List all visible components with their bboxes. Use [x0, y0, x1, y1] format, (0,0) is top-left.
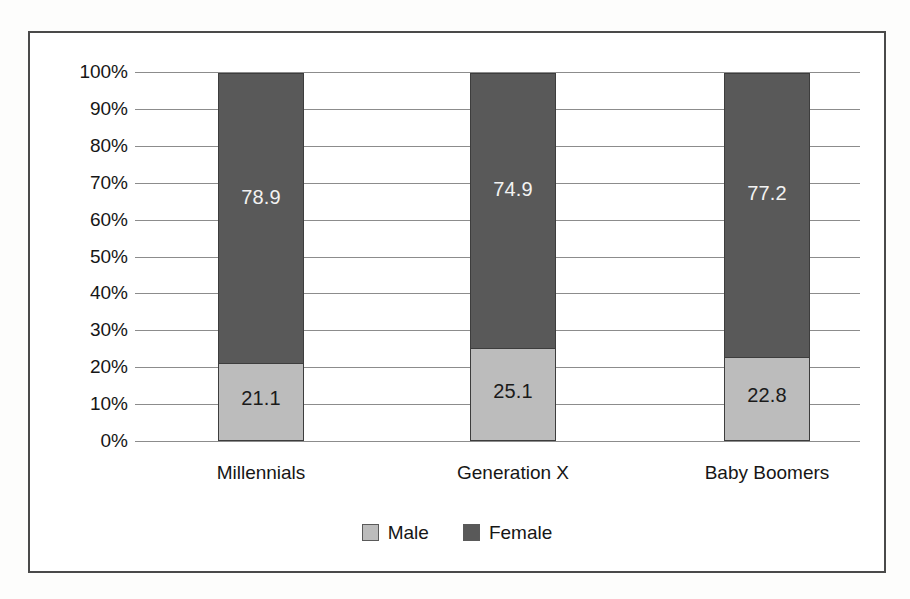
y-axis-tick-label: 20%	[56, 357, 128, 376]
bar-value-label: 22.8	[747, 385, 787, 405]
legend-swatch-icon	[463, 524, 480, 541]
y-axis-tick-label: 60%	[56, 210, 128, 229]
bar-value-label: 25.1	[493, 381, 533, 401]
x-axis: MillennialsGeneration XBaby Boomers	[135, 461, 860, 495]
y-axis-tick-label: 90%	[56, 99, 128, 118]
y-axis-tick-label: 40%	[56, 283, 128, 302]
bar-segment-male[interactable]: 25.1	[470, 348, 556, 441]
gridline-0%	[135, 441, 860, 442]
bar-segment-male[interactable]: 21.1	[218, 363, 304, 441]
bar-group[interactable]: 74.925.1	[470, 73, 556, 441]
x-axis-category-label: Millennials	[151, 461, 371, 485]
y-axis-tick-label: 100%	[56, 62, 128, 81]
y-axis-tick-label: 50%	[56, 247, 128, 266]
y-axis-tick-label: 30%	[56, 320, 128, 339]
legend-item-female[interactable]: Female	[463, 523, 552, 542]
y-axis-tick-label: 0%	[56, 431, 128, 450]
bar-segment-female[interactable]: 77.2	[724, 73, 810, 358]
bar-group[interactable]: 78.921.1	[218, 73, 304, 441]
y-axis-tick-label: 10%	[56, 394, 128, 413]
legend-label: Female	[489, 523, 552, 542]
bar-group[interactable]: 77.222.8	[724, 73, 810, 441]
chart-legend: MaleFemale	[30, 523, 884, 542]
y-axis-tick-label: 70%	[56, 173, 128, 192]
plot-area: 78.921.174.925.177.222.8	[135, 72, 860, 441]
bar-value-label: 77.2	[747, 183, 787, 203]
y-axis-tick-label: 80%	[56, 136, 128, 155]
bar-segment-female[interactable]: 74.9	[470, 73, 556, 349]
chart-frame: 0%10%20%30%40%50%60%70%80%90%100% 78.921…	[28, 31, 886, 573]
bar-value-label: 21.1	[241, 388, 281, 408]
legend-label: Male	[388, 523, 429, 542]
bar-value-label: 78.9	[241, 187, 281, 207]
bar-segment-male[interactable]: 22.8	[724, 357, 810, 441]
legend-item-male[interactable]: Male	[362, 523, 429, 542]
x-axis-category-label: Baby Boomers	[657, 461, 877, 485]
legend-swatch-icon	[362, 524, 379, 541]
bar-value-label: 74.9	[493, 179, 533, 199]
bar-segment-female[interactable]: 78.9	[218, 73, 304, 364]
x-axis-category-label: Generation X	[403, 461, 623, 485]
y-axis: 0%10%20%30%40%50%60%70%80%90%100%	[48, 72, 128, 441]
